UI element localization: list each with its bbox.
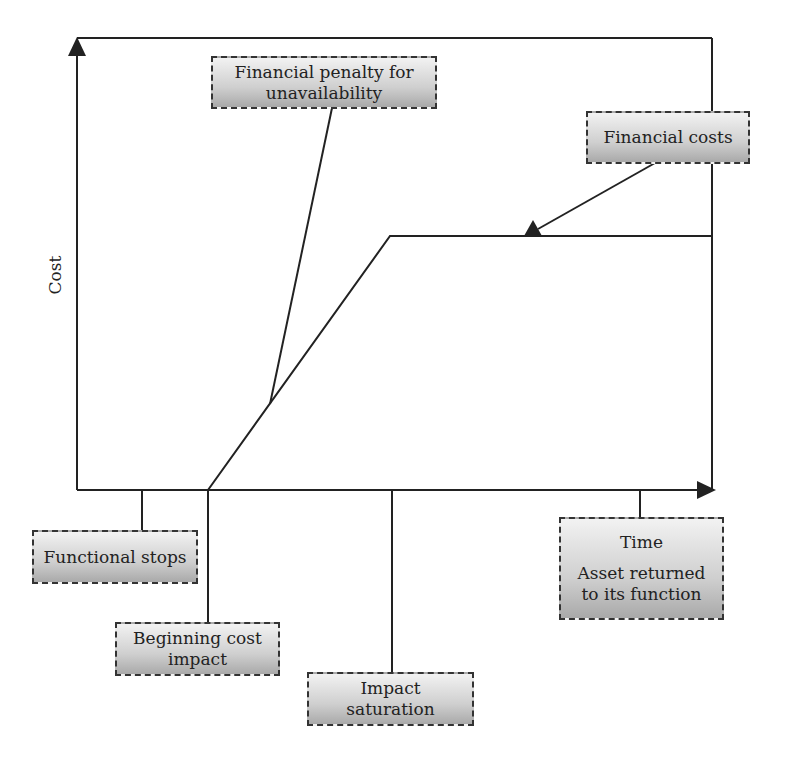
time-label-title: Time: [620, 532, 663, 553]
impact-saturation-line2: saturation: [346, 699, 434, 720]
financial-costs-label: Financial costs: [603, 127, 732, 148]
time-label-line2: to its function: [581, 584, 701, 605]
time-label-line1: Asset returned: [577, 563, 705, 584]
penalty-label-line2: unavailability: [266, 83, 382, 104]
y-axis-label: Cost: [45, 256, 65, 295]
functional-stops-label-box: Functional stops: [32, 530, 198, 584]
penalty-label-line1: Financial penalty for: [234, 62, 413, 83]
beginning-cost-label-box: Beginning cost impact: [115, 622, 280, 676]
financial-costs-leader-line: [538, 163, 655, 229]
y-axis-arrow-icon: [68, 37, 86, 56]
impact-saturation-label-box: Impact saturation: [307, 672, 474, 726]
beginning-cost-line2: impact: [168, 649, 227, 670]
time-label-box: Time Asset returned to its function: [559, 517, 724, 620]
x-axis-arrow-icon: [697, 481, 716, 499]
functional-stops-label: Functional stops: [43, 547, 186, 568]
impact-saturation-line1: Impact: [360, 678, 420, 699]
beginning-cost-line1: Beginning cost: [133, 628, 262, 649]
financial-costs-label-box: Financial costs: [586, 111, 750, 164]
cost-curve: [208, 236, 712, 490]
penalty-label-box: Financial penalty for unavailability: [211, 56, 437, 109]
